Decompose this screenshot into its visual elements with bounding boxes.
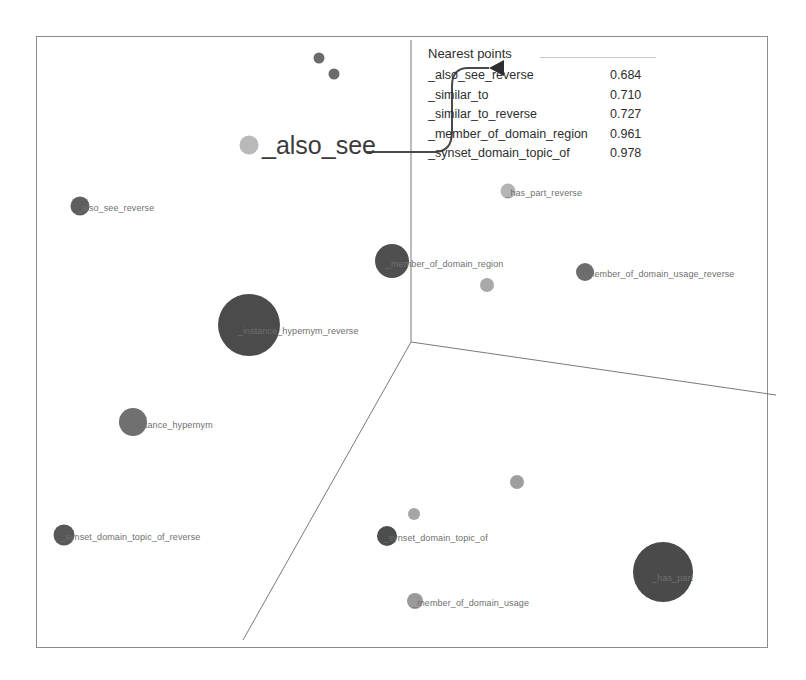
nearest-point-name: _also_see_reverse <box>428 66 534 86</box>
data-point-label: _instance_hypernym <box>128 420 213 430</box>
nearest-point-name: _synset_domain_topic_of <box>428 144 570 164</box>
nearest-point-row[interactable]: _similar_to_reverse0.727 <box>428 105 656 125</box>
nearest-point-row[interactable]: _member_of_domain_region0.961 <box>428 125 656 145</box>
data-point-bubble[interactable] <box>329 69 340 80</box>
data-point-label: _synset_domain_topic_of <box>383 533 487 543</box>
data-point-bubble[interactable] <box>633 542 693 602</box>
nearest-points-list: _also_see_reverse0.684_similar_to0.710_s… <box>428 66 656 164</box>
data-point-bubble[interactable] <box>218 294 280 356</box>
nearest-point-value: 0.727 <box>610 105 641 125</box>
nearest-point-value: 0.684 <box>610 66 641 86</box>
data-point-bubble[interactable] <box>510 475 524 489</box>
data-point-label: _instance_hypernym_reverse <box>238 326 359 336</box>
nearest-point-value: 0.710 <box>610 86 641 106</box>
nearest-point-name: _similar_to_reverse <box>428 105 537 125</box>
nearest-point-value: 0.978 <box>610 144 641 164</box>
data-point-bubble[interactable] <box>240 136 259 155</box>
data-point-bubble[interactable] <box>408 508 420 520</box>
data-point-bubble[interactable] <box>480 278 494 292</box>
nearest-point-name: _similar_to <box>428 86 488 106</box>
nearest-point-row[interactable]: _also_see_reverse0.684 <box>428 66 656 86</box>
data-point-bubble[interactable] <box>314 53 325 64</box>
data-point-label: _member_of_domain_usage <box>412 598 529 608</box>
data-point-label: _also_see_reverse <box>77 203 155 213</box>
data-point-label: _has_part_reverse <box>505 188 582 198</box>
panel-title: Nearest points <box>428 46 656 61</box>
nearest-point-row[interactable]: _similar_to0.710 <box>428 86 656 106</box>
nearest-point-name: _member_of_domain_region <box>428 125 588 145</box>
scatter-plot-viewer: _also_see_reverse_has_part_reverse_membe… <box>0 0 806 680</box>
data-point-label: _has_part <box>652 573 693 583</box>
data-point-label: _member_of_domain_region <box>386 259 503 269</box>
nearest-point-row[interactable]: _synset_domain_topic_of0.978 <box>428 144 656 164</box>
nearest-points-panel: Nearest points _also_see_reverse0.684_si… <box>428 46 656 164</box>
nearest-point-value: 0.961 <box>610 125 641 145</box>
panel-divider <box>540 57 656 58</box>
data-point-label: _member_of_domain_usage_reverse <box>582 269 735 279</box>
selected-point-label: _also_see <box>262 131 376 160</box>
data-point-label: _synset_domain_topic_of_reverse <box>60 532 200 542</box>
